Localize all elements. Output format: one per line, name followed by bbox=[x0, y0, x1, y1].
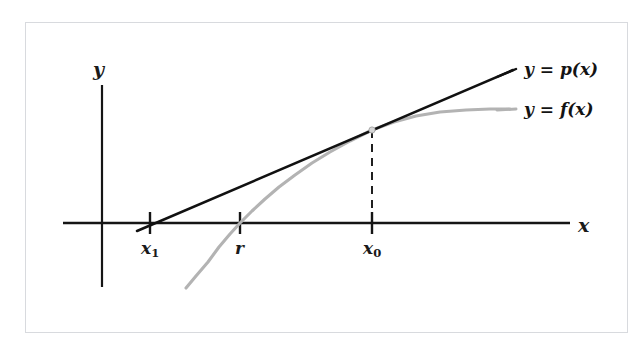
tangent-line-p bbox=[137, 70, 513, 231]
tick-label-x0-base: x bbox=[363, 238, 373, 258]
legend-swatch-p bbox=[497, 69, 516, 77]
y-axis-label: y bbox=[93, 60, 104, 79]
tick-label-x1-sub: 1 bbox=[151, 246, 159, 260]
tick-label-x0: x0 bbox=[363, 240, 381, 260]
tick-label-x0-sub: 0 bbox=[373, 246, 381, 260]
plot-canvas bbox=[0, 0, 641, 354]
legend-swatch-f bbox=[497, 109, 516, 110]
tick-label-x1: x1 bbox=[141, 240, 159, 260]
tick-label-r-base: r bbox=[235, 238, 244, 258]
tick-label-x1-base: x bbox=[141, 238, 151, 258]
tangency-point-marker bbox=[369, 127, 375, 133]
figure-root: y x x1 r x0 y = p(x) y = f(x) bbox=[0, 0, 641, 354]
legend-label-p: y = p(x) bbox=[524, 61, 598, 78]
legend-label-f: y = f(x) bbox=[524, 101, 594, 118]
function-curve-f bbox=[186, 109, 510, 288]
x-axis-label: x bbox=[578, 216, 589, 235]
tick-label-r: r bbox=[235, 240, 244, 260]
